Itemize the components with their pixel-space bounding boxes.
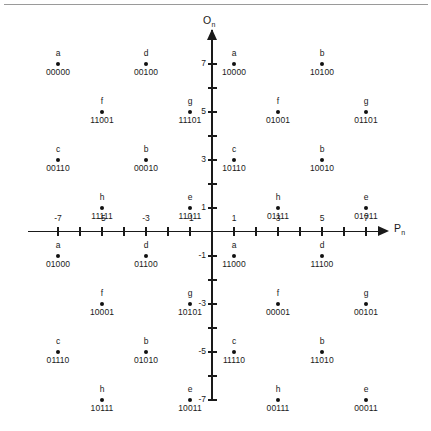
point-marker: [364, 302, 368, 306]
point-marker: [232, 254, 236, 258]
point-code-label: 10010: [292, 164, 352, 173]
point-code-label: 11010: [292, 356, 352, 365]
point-code-label: 11111: [72, 212, 132, 221]
point-marker: [144, 254, 148, 258]
point-letter-label: b: [124, 145, 168, 154]
point-code-label: 01111: [248, 212, 308, 221]
point-code-label: 11000: [204, 260, 264, 269]
point-code-label: 00101: [336, 308, 396, 317]
point-code-label: 11101: [160, 116, 220, 125]
point-code-label: 10000: [204, 68, 264, 77]
point-marker: [232, 158, 236, 162]
point-code-label: 10001: [72, 308, 132, 317]
x-tick: [343, 227, 344, 236]
point-letter-label: f: [80, 97, 124, 106]
point-marker: [364, 110, 368, 114]
point-letter-label: e: [168, 193, 212, 202]
point-code-label: 11100: [292, 260, 352, 269]
point-code-label: 10111: [72, 404, 132, 413]
point-code-label: 11110: [204, 356, 264, 365]
y-tick: [208, 87, 217, 88]
y-tick-label: 7: [186, 59, 206, 68]
point-code-label: 00000: [28, 68, 88, 77]
y-axis-label-sub: n: [211, 21, 215, 28]
point-code-label: 01010: [116, 356, 176, 365]
x-tick: [123, 227, 124, 236]
x-axis-arrow-icon: [378, 226, 389, 236]
y-tick: [208, 135, 217, 136]
y-tick-label: -5: [186, 347, 206, 356]
point-letter-label: b: [300, 337, 344, 346]
point-code-label: 00100: [116, 68, 176, 77]
point-marker: [320, 158, 324, 162]
point-letter-label: h: [256, 193, 300, 202]
point-code-label: 11001: [72, 116, 132, 125]
y-tick: [208, 207, 217, 208]
point-letter-label: h: [80, 193, 124, 202]
point-letter-label: h: [80, 385, 124, 394]
point-code-label: 01101: [336, 116, 396, 125]
x-tick-label: 1: [222, 214, 246, 223]
point-code-label: 10110: [204, 164, 264, 173]
x-tick: [57, 227, 58, 236]
point-letter-label: e: [168, 385, 212, 394]
point-letter-label: d: [300, 241, 344, 250]
point-letter-label: g: [168, 97, 212, 106]
x-tick: [189, 227, 190, 236]
x-tick: [277, 227, 278, 236]
y-axis-label: On: [203, 14, 215, 28]
point-marker: [56, 158, 60, 162]
x-tick-label: -3: [134, 214, 158, 223]
point-code-label: 00110: [28, 164, 88, 173]
x-axis-label-sub: n: [401, 229, 405, 236]
y-tick: [208, 159, 217, 160]
x-tick-label: 5: [310, 214, 334, 223]
point-letter-label: h: [256, 385, 300, 394]
y-tick: [208, 303, 217, 304]
y-tick-label: 3: [186, 155, 206, 164]
point-letter-label: f: [80, 289, 124, 298]
point-letter-label: d: [124, 49, 168, 58]
point-letter-label: c: [36, 145, 80, 154]
point-marker: [232, 62, 236, 66]
point-marker: [364, 398, 368, 402]
point-marker: [276, 302, 280, 306]
y-tick-label: -1: [186, 251, 206, 260]
x-axis-label: Pn: [394, 222, 405, 236]
point-letter-label: a: [212, 49, 256, 58]
y-tick: [208, 279, 217, 280]
y-tick: [208, 399, 217, 400]
point-code-label: 10100: [292, 68, 352, 77]
point-letter-label: f: [256, 97, 300, 106]
point-marker: [56, 254, 60, 258]
point-letter-label: a: [36, 241, 80, 250]
x-tick: [255, 227, 256, 236]
point-marker: [320, 350, 324, 354]
point-marker: [100, 206, 104, 210]
point-letter-label: c: [212, 337, 256, 346]
point-letter-label: a: [36, 49, 80, 58]
point-marker: [276, 110, 280, 114]
y-tick: [208, 375, 217, 376]
y-tick: [208, 351, 217, 352]
x-tick: [79, 227, 80, 236]
point-code-label: 10101: [160, 308, 220, 317]
point-code-label: 00111: [248, 404, 308, 413]
y-tick: [208, 255, 217, 256]
point-letter-label: c: [212, 145, 256, 154]
y-tick: [208, 327, 217, 328]
point-code-label: 01100: [116, 260, 176, 269]
x-tick: [101, 227, 102, 236]
point-letter-label: b: [124, 337, 168, 346]
point-code-label: 01110: [28, 356, 88, 365]
point-letter-label: g: [344, 97, 388, 106]
x-tick: [365, 227, 366, 236]
point-marker: [144, 158, 148, 162]
point-letter-label: e: [344, 193, 388, 202]
y-tick: [208, 63, 217, 64]
point-letter-label: c: [36, 337, 80, 346]
point-marker: [320, 62, 324, 66]
point-code-label: 11011: [160, 212, 220, 221]
point-code-label: 01000: [28, 260, 88, 269]
point-marker: [144, 62, 148, 66]
